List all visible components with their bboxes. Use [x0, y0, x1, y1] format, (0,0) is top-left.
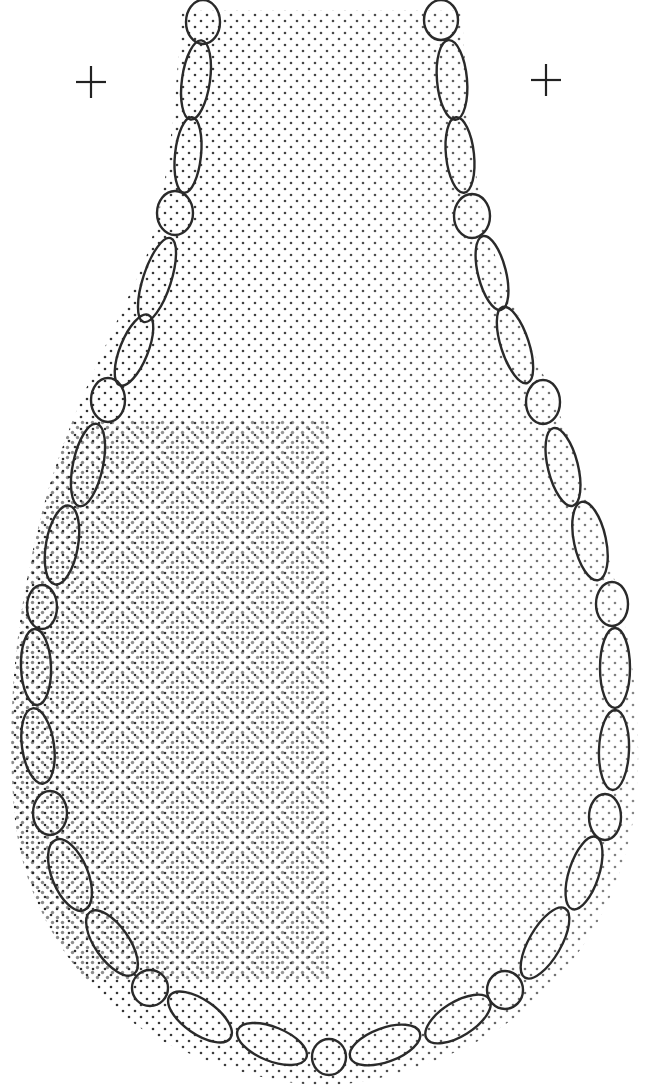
right-crosshair-icon — [531, 64, 561, 96]
stippled-flask-diagram — [0, 0, 650, 1086]
left-crosshair-icon — [76, 66, 106, 98]
stippled-body — [0, 0, 650, 1086]
